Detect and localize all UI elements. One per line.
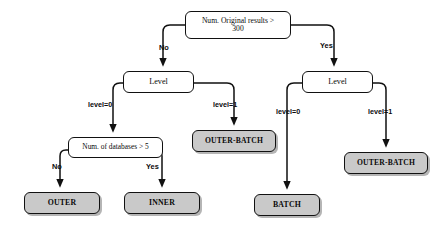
- edge-right-level0: [287, 83, 302, 185]
- edge-label-db-yes: Yes: [146, 162, 159, 171]
- edge-label-root-yes: Yes: [320, 41, 333, 50]
- edge-label-left-level1: level=1: [213, 100, 237, 109]
- node-level-left[interactable]: Level: [123, 71, 194, 93]
- node-level-right[interactable]: Level: [302, 71, 373, 93]
- edge-label-right-level1: level=1: [368, 107, 392, 116]
- edge-label-db-no: No: [52, 162, 62, 171]
- edge-label-left-level0: level=0: [88, 100, 112, 109]
- node-batch[interactable]: BATCH: [254, 194, 320, 216]
- node-outer-batch-right[interactable]: OUTER-BATCH: [344, 152, 428, 174]
- node-outer[interactable]: OUTER: [24, 192, 100, 214]
- node-outer-batch-left[interactable]: OUTER-BATCH: [192, 130, 276, 152]
- edge-label-root-no: No: [159, 43, 169, 52]
- node-inner[interactable]: INNER: [124, 192, 200, 214]
- node-num-databases[interactable]: Num. of databases > 5: [68, 137, 163, 158]
- edge-left-level0: [113, 83, 123, 128]
- node-root[interactable]: Num. Original results > 300: [185, 11, 291, 39]
- edge-label-right-level0: level=0: [276, 107, 300, 116]
- decision-tree-diagram: Num. Original results > 300 Level Level …: [0, 0, 447, 231]
